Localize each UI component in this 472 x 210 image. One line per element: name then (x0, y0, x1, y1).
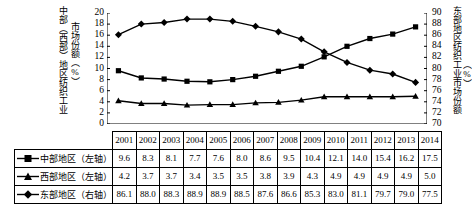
table-year-header: 2001 (113, 132, 137, 150)
table-row: 西部地区（左轴）4.23.73.73.43.53.53.83.94.34.94.… (15, 168, 442, 186)
data-point-marker (184, 79, 189, 84)
table-year-header: 2003 (160, 132, 184, 150)
table-year-header: 2005 (207, 132, 231, 150)
table-data-cell: 3.7 (160, 168, 184, 186)
table-data-cell: 7.6 (207, 150, 231, 168)
table-year-header: 2007 (254, 132, 278, 150)
table-data-cell: 10.4 (301, 150, 325, 168)
data-point-marker (367, 36, 372, 41)
left-axis-label-line1: 中部（西部）地区纺织工业 (58, 6, 68, 132)
left-axis-tick: 0 (99, 119, 104, 129)
data-point-marker (252, 23, 259, 30)
right-axis-tick: 74 (432, 97, 442, 107)
table-data-cell: 87.6 (254, 186, 278, 204)
table-body: 中部地区（左轴）9.68.38.17.77.68.08.69.510.412.1… (15, 150, 442, 204)
table-data-cell: 17.5 (418, 150, 442, 168)
table-data-cell: 88.9 (183, 186, 207, 204)
left-axis-tick: 16 (95, 30, 105, 40)
plot-area (107, 13, 427, 124)
table-year-header: 2013 (395, 132, 419, 150)
table-data-cell: 3.8 (254, 168, 278, 186)
table-data-cell: 3.9 (277, 168, 301, 186)
data-point-marker (116, 68, 121, 73)
table-data-cell: 3.5 (230, 168, 254, 186)
table-data-cell: 85.3 (301, 186, 325, 204)
left-axis-tick: 14 (95, 42, 105, 52)
table-year-header: 2009 (301, 132, 325, 150)
data-table: 2001200220032004200520062007200820092010… (14, 131, 442, 204)
left-axis-tick-labels: 20181614121086420 (84, 0, 104, 130)
table-data-cell: 88.5 (230, 186, 254, 204)
table-year-header: 2014 (418, 132, 442, 150)
table-data-cell: 79.0 (395, 186, 419, 204)
right-axis-tick: 80 (432, 64, 442, 74)
table-data-cell: 81.1 (348, 186, 372, 204)
series-line (118, 27, 415, 82)
series-3 (115, 16, 419, 86)
table-year-header: 2011 (348, 132, 372, 150)
table-data-cell: 88.0 (136, 186, 160, 204)
data-point-marker (115, 31, 122, 38)
right-axis-tick: 88 (432, 19, 442, 29)
table-year-header: 2010 (324, 132, 348, 150)
data-point-marker (366, 67, 373, 74)
right-axis-tick: 90 (432, 8, 442, 18)
table-data-cell: 3.7 (136, 168, 160, 186)
table-year-header: 2004 (183, 132, 207, 150)
table-data-cell: 8.0 (230, 150, 254, 168)
data-point-marker (413, 24, 418, 29)
right-axis-tick-labels: 9088868482807876747270 (432, 0, 452, 130)
data-point-marker (276, 69, 281, 74)
table-data-cell: 88.9 (207, 186, 231, 204)
table-data-cell: 14.0 (348, 150, 372, 168)
legend-row-3: 东部地区（右轴） (15, 186, 113, 204)
table-data-cell: 4.9 (324, 168, 348, 186)
data-point-marker (138, 21, 145, 28)
left-axis-tick: 12 (95, 53, 105, 63)
right-axis-label-line2: （%） (462, 60, 472, 132)
data-point-marker (207, 79, 212, 84)
right-axis-tick: 78 (432, 75, 442, 85)
table-header-row: 2001200220032004200520062007200820092010… (15, 132, 442, 150)
table-data-cell: 86.6 (277, 186, 301, 204)
table-data-cell: 7.7 (183, 150, 207, 168)
data-point-marker (412, 79, 419, 86)
left-axis-tick: 20 (95, 8, 105, 18)
right-axis-tick: 86 (432, 30, 442, 40)
series-line (118, 19, 415, 82)
table-year-header: 2006 (230, 132, 254, 150)
data-point-marker (343, 59, 350, 66)
table-corner-cell (15, 132, 113, 150)
table-year-header: 2002 (136, 132, 160, 150)
data-point-marker (298, 36, 305, 43)
data-point-marker (139, 75, 144, 80)
right-axis-tick: 72 (432, 108, 442, 118)
table-data-cell: 4.3 (301, 168, 325, 186)
legend-row-label: 中部地区（左轴） (40, 154, 112, 164)
data-point-marker (275, 28, 282, 35)
data-point-marker (162, 76, 167, 81)
table-data-cell: 4.9 (395, 168, 419, 186)
right-axis-label-line1: 东部地区纺织工业市场份额 (452, 6, 462, 132)
table-data-cell: 8.1 (160, 150, 184, 168)
table-row: 东部地区（右轴）86.188.088.388.988.988.587.686.6… (15, 186, 442, 204)
data-point-marker (344, 44, 349, 49)
data-point-marker (253, 74, 258, 79)
data-point-marker (229, 18, 236, 25)
triangle-marker-icon (17, 172, 39, 181)
left-axis-tick: 8 (99, 75, 104, 85)
left-axis-tick: 6 (99, 86, 104, 96)
series-canvas (107, 13, 427, 124)
left-axis-tick: 2 (99, 108, 104, 118)
right-axis-tick: 84 (432, 42, 442, 52)
legend-row-1: 中部地区（左轴） (15, 150, 113, 168)
right-axis-tick: 70 (432, 119, 442, 129)
data-point-marker (161, 19, 168, 26)
data-point-marker (389, 71, 396, 78)
square-marker-icon (17, 154, 39, 163)
table-data-cell: 12.1 (324, 150, 348, 168)
data-point-marker (206, 16, 213, 23)
table-data-cell: 15.4 (371, 150, 395, 168)
series-1 (116, 24, 418, 84)
